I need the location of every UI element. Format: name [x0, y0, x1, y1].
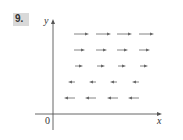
arrowhead-left-icon [64, 96, 68, 99]
arrowhead-right-icon [103, 48, 107, 51]
arrowhead-right-icon [79, 64, 83, 67]
arrowhead-left-icon [110, 80, 114, 83]
arrowhead-right-icon [122, 64, 126, 67]
y-axis-arrowhead-icon [51, 19, 55, 24]
arrowhead-right-icon [124, 48, 128, 51]
arrowhead-right-icon [150, 32, 154, 35]
arrowhead-left-icon [107, 96, 111, 99]
x-axis-label: x [157, 116, 161, 126]
arrowhead-right-icon [146, 48, 150, 51]
arrowhead-right-icon [101, 64, 105, 67]
arrowhead-right-icon [81, 48, 85, 51]
arrowhead-right-icon [144, 64, 148, 67]
y-axis-label: y [44, 16, 48, 26]
arrowhead-left-icon [89, 80, 93, 83]
arrowhead-right-icon [85, 32, 89, 35]
arrowhead-left-icon [85, 96, 89, 99]
arrowhead-right-icon [128, 32, 132, 35]
origin-label: 0 [45, 116, 50, 126]
arrowhead-left-icon [132, 80, 136, 83]
arrowhead-left-icon [68, 80, 72, 83]
vector-field-plot [0, 0, 183, 140]
arrowhead-left-icon [128, 96, 132, 99]
arrowhead-right-icon [107, 32, 111, 35]
